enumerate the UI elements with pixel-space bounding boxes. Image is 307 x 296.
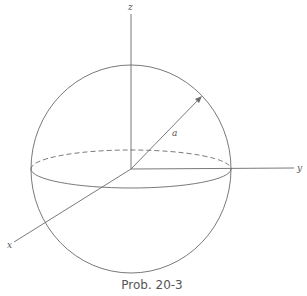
equator-front: [31, 169, 231, 188]
x-axis-label: x: [7, 240, 12, 250]
figure-caption: Prob. 20-3: [121, 278, 183, 292]
z-axis-label: z: [127, 2, 133, 12]
radius-arrow: [131, 99, 199, 169]
sphere-diagram: z y x a Prob. 20-3: [0, 0, 307, 296]
radius-label: a: [172, 128, 177, 138]
y-axis-label: y: [296, 163, 303, 173]
y-axis: [131, 168, 294, 169]
